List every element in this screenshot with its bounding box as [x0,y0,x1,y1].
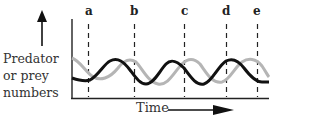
marker-label-c: c [181,4,188,18]
marker-label-b: b [130,4,138,18]
y-arrow-icon [37,10,47,46]
x-axis-label: Time [136,100,169,115]
marker-label-d: d [222,4,231,18]
marker-label-a: a [85,4,93,18]
time-arrow-icon [168,105,234,115]
marker-label-e: e [253,4,261,18]
predator-curve [72,60,269,85]
